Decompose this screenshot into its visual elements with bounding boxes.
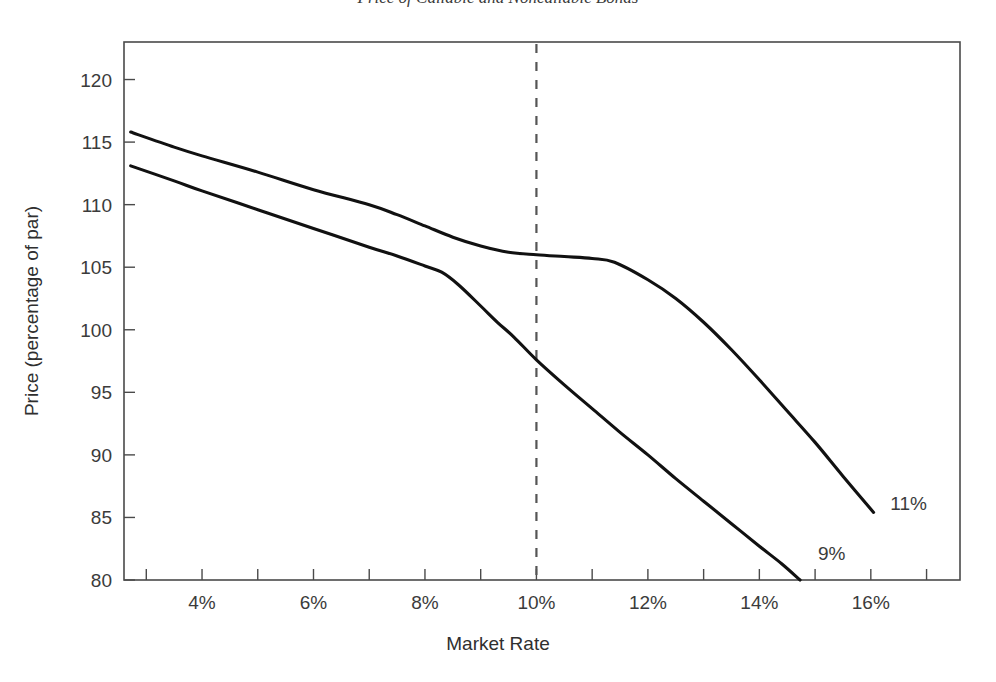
x-axis-tick-labels: 4%6%8%10%12%14%16% xyxy=(188,592,890,613)
series-curves xyxy=(131,132,874,580)
series-curve-11pct xyxy=(131,132,874,512)
x-tick-label: 12% xyxy=(629,592,667,613)
series-end-label: 9% xyxy=(818,543,846,564)
x-axis-title: Market Rate xyxy=(446,633,549,654)
y-axis-title: Price (percentage of par) xyxy=(21,206,42,416)
x-tick-label: 6% xyxy=(300,592,328,613)
y-tick-label: 85 xyxy=(91,507,112,528)
x-tick-label: 14% xyxy=(740,592,778,613)
plot-frame xyxy=(124,42,960,580)
series-end-label: 11% xyxy=(890,493,927,514)
y-tick-label: 115 xyxy=(82,132,112,153)
y-tick-label: 80 xyxy=(91,570,112,591)
y-tick-label: 110 xyxy=(82,195,112,216)
x-tick-label: 4% xyxy=(188,592,216,613)
y-tick-label: 95 xyxy=(91,382,112,403)
x-tick-label: 8% xyxy=(411,592,439,613)
y-tick-label: 100 xyxy=(80,320,112,341)
y-tick-label: 90 xyxy=(91,445,112,466)
y-tick-label: 105 xyxy=(80,257,112,278)
chart-page: Price of Callable and Noncallable Bonds … xyxy=(0,0,996,682)
x-tick-label: 16% xyxy=(852,592,890,613)
y-tick-label: 120 xyxy=(80,70,112,91)
series-curve-9pct xyxy=(131,166,800,580)
y-axis-tick-labels: 80859095100105110115120 xyxy=(80,70,112,591)
axis-tickmarks xyxy=(124,80,927,580)
chart-plot: 80859095100105110115120 4%6%8%10%12%14%1… xyxy=(0,0,996,682)
x-tick-label: 10% xyxy=(517,592,555,613)
series-end-labels: 11%9% xyxy=(818,493,927,564)
